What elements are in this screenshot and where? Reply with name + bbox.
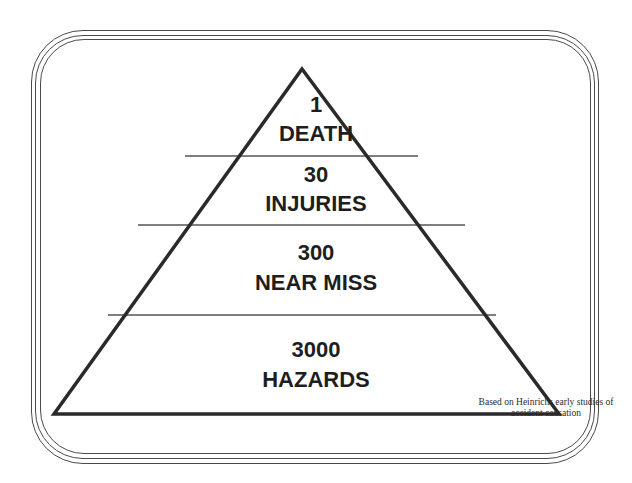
level-death-count: 1 [0,92,632,118]
level-injuries-label: INJURIES [0,191,632,217]
source-footnote: Based on Heinrichs early studies of acci… [470,397,622,419]
level-death-label: DEATH [0,121,632,147]
level-hazards-label: HAZARDS [0,367,632,393]
footnote-line-2: accident causation [470,408,622,419]
level-nearmiss-count: 300 [0,240,632,266]
level-injuries-count: 30 [0,162,632,188]
level-hazards-count: 3000 [0,337,632,363]
footnote-line-1: Based on Heinrichs early studies of [470,397,622,408]
level-nearmiss-label: NEAR MISS [0,270,632,296]
